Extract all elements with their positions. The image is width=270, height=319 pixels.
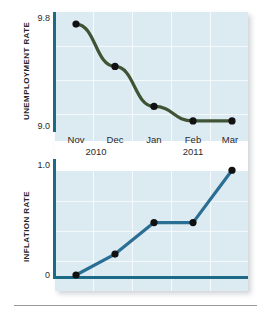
gridline-vertical	[171, 12, 172, 141]
gridline-horizontal	[55, 201, 248, 202]
gridline-vertical	[93, 171, 94, 291]
xtick-jan: Jan	[136, 134, 172, 145]
xtick-dec: Dec	[97, 134, 133, 145]
xtick-feb: Feb	[175, 134, 211, 145]
gridline-horizontal	[55, 231, 248, 232]
unemployment-axis-title: UNEMPLOYMENT RATE	[22, 22, 31, 120]
inflation-axis-title: INFLATION RATE	[22, 191, 31, 262]
inflation-plot-area	[55, 171, 248, 291]
xtick-year-2011: 2011	[175, 146, 211, 157]
unemployment-ytick-low: 9.0	[14, 121, 50, 131]
unemployment-y-axis-spine	[53, 12, 56, 132]
inflation-ytick-high: 1.0	[14, 160, 50, 170]
gridline-horizontal	[55, 114, 248, 115]
gridline-vertical	[132, 171, 133, 291]
gridline-horizontal	[55, 80, 248, 81]
gridline-horizontal	[55, 46, 248, 47]
gridline-horizontal	[55, 261, 248, 262]
unemployment-ytick-high: 9.8	[14, 13, 50, 23]
inflation-ytick-low: 0	[14, 270, 50, 280]
gridline-vertical	[93, 12, 94, 141]
xtick-year-2010: 2010	[78, 146, 114, 157]
figure-container: UNEMPLOYMENT RATE INFLATION RATE 9.8 9.0…	[0, 0, 270, 319]
inflation-x-axis-spine	[53, 276, 248, 279]
xtick-nov: Nov	[58, 134, 94, 145]
gridline-vertical	[132, 12, 133, 141]
footer-rule	[14, 305, 257, 306]
unemployment-plot-area	[55, 12, 248, 141]
gridline-vertical	[171, 171, 172, 291]
xtick-mar: Mar	[212, 134, 248, 145]
gridline-vertical	[210, 171, 211, 291]
inflation-y-axis-spine	[53, 159, 56, 279]
gridline-vertical	[210, 12, 211, 141]
